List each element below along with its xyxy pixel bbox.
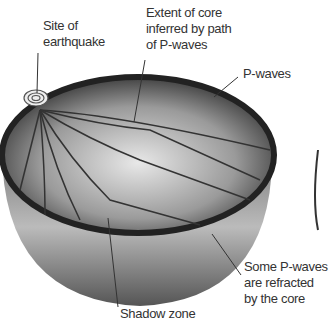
label-shadow-zone: Shadow zone — [120, 306, 195, 322]
label-refracted: Some P-waves are refracted by the core — [244, 259, 328, 307]
label-p-waves: P-waves — [243, 66, 291, 82]
label-extent-of-core: Extent of core inferred by path of P-wav… — [146, 5, 232, 53]
label-site-of-earthquake: Site of earthquake — [43, 18, 105, 50]
earthquake-site-icon — [24, 90, 48, 106]
